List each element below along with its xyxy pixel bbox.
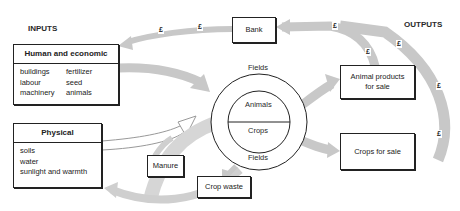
pound-icon: £ <box>365 48 371 56</box>
animal-products-label: Animal products for sale <box>347 72 408 92</box>
animals-label: Animals <box>245 100 272 110</box>
bank-label: Bank <box>245 25 262 35</box>
inputs-heading: INPUTS <box>28 24 57 34</box>
pound-icon: £ <box>396 40 402 48</box>
input-item: buildings <box>20 67 66 78</box>
manure-box: Manure <box>147 155 184 177</box>
human-economic-box: Human and economic buildings fertilizer … <box>13 44 119 105</box>
crop-waste-box: Crop waste <box>197 176 251 198</box>
physical-title: Physical <box>14 124 101 143</box>
input-item: water <box>20 157 95 168</box>
input-item: soils <box>20 146 95 157</box>
crops-label: Crops <box>248 126 268 136</box>
input-item: labour <box>20 78 66 89</box>
physical-box: Physical soils water sunlight and warmth <box>13 123 102 188</box>
crops-for-sale-box: Crops for sale <box>340 133 415 170</box>
outputs-heading: OUTPUTS <box>404 20 442 30</box>
fields-top-label: Fields <box>248 63 268 73</box>
input-item: seed <box>66 78 112 89</box>
manure-label: Manure <box>153 161 178 171</box>
pound-icon: £ <box>332 22 338 30</box>
crop-waste-label: Crop waste <box>205 182 243 192</box>
animal-products-box: Animal products for sale <box>340 65 415 99</box>
fields-bottom-label: Fields <box>248 153 268 163</box>
pound-icon: £ <box>158 26 164 34</box>
input-item: fertilizer <box>66 67 112 78</box>
pound-icon: £ <box>436 130 442 138</box>
bank-box: Bank <box>232 17 276 43</box>
physical-list: soils water sunlight and warmth <box>14 143 101 181</box>
input-item: animals <box>66 88 112 99</box>
human-economic-list: buildings fertilizer labour seed machine… <box>14 64 118 102</box>
human-economic-title: Human and economic <box>14 45 118 64</box>
bank-to-inputs-arrowhead <box>118 36 133 50</box>
input-item: machinery <box>20 88 66 99</box>
input-item: sunlight and warmth <box>20 167 95 178</box>
crops-for-sale-label: Crops for sale <box>354 147 401 157</box>
pound-icon: £ <box>436 82 442 90</box>
pound-icon: £ <box>197 23 203 31</box>
bank-arrowhead <box>276 19 290 35</box>
